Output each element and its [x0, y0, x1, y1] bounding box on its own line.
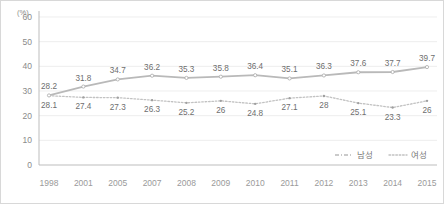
data-label-male: 36.3 [316, 62, 332, 71]
chart-legend: 남성여성 [335, 150, 427, 160]
y-axis-tick-label: 0 [27, 160, 32, 170]
data-label-male: 35.3 [178, 65, 194, 74]
x-axis-tick-label: 2001 [74, 178, 93, 188]
data-point-female [220, 100, 222, 102]
axes-group [39, 11, 437, 165]
y-axis-tick-label: 30 [23, 86, 33, 96]
gridlines-group [39, 17, 437, 140]
data-label-female: 25.1 [350, 108, 366, 117]
data-label-male: 36.4 [247, 62, 263, 71]
data-point-female [323, 95, 325, 97]
data-point-male [288, 77, 291, 80]
x-axis-tick-label: 2010 [246, 178, 265, 188]
data-point-male [47, 94, 50, 97]
data-label-female: 26.3 [144, 105, 160, 114]
data-label-male: 28.2 [41, 82, 57, 91]
x-axis-tick-label: 2012 [314, 178, 333, 188]
data-label-female: 28 [319, 101, 329, 110]
data-point-male [82, 85, 85, 88]
x-axis-tick-label: 2009 [211, 178, 230, 188]
data-point-male [185, 76, 188, 79]
x-axis-tick-label: 2013 [349, 178, 368, 188]
series-line-female [49, 96, 427, 108]
data-point-labels-group: 28.231.834.736.235.335.836.435.136.337.6… [41, 54, 435, 121]
data-label-male: 37.7 [385, 59, 401, 68]
data-label-male: 31.8 [75, 74, 91, 83]
data-label-female: 26 [422, 106, 432, 115]
line-chart-container: (%) 6050403020100 1998200120052007200820… [0, 0, 444, 204]
y-axis-tick-label: 50 [23, 37, 33, 47]
data-series-group [47, 65, 428, 108]
x-axis-tick-label: 2005 [108, 178, 127, 188]
data-point-male [357, 71, 360, 74]
x-axis-tick-label: 2008 [177, 178, 196, 188]
data-label-female: 24.8 [247, 109, 263, 118]
x-axis-tick-label: 2015 [418, 178, 437, 188]
data-point-male [322, 74, 325, 77]
y-axis-tick-labels: 6050403020100 [23, 12, 33, 170]
x-axis-tick-label: 1998 [40, 178, 59, 188]
legend-label-male: 남성 [357, 150, 373, 160]
y-axis-tick-label: 10 [23, 135, 33, 145]
data-point-female [82, 96, 84, 98]
y-axis-tick-label: 40 [23, 61, 33, 71]
data-point-male [254, 74, 257, 77]
data-point-male [425, 65, 428, 68]
data-label-female: 27.4 [75, 102, 91, 111]
data-label-female: 28.1 [41, 101, 57, 110]
data-label-female: 27.1 [282, 103, 298, 112]
data-point-female [288, 97, 290, 99]
data-point-female [426, 100, 428, 102]
x-axis-tick-labels: 1998200120052007200820092010201120122013… [40, 178, 437, 188]
legend-label-female: 여성 [411, 150, 427, 160]
data-label-male: 39.7 [419, 54, 435, 63]
data-label-male: 36.2 [144, 63, 160, 72]
x-axis-tick-label: 2007 [143, 178, 162, 188]
data-label-male: 35.1 [282, 65, 298, 74]
data-point-female [254, 103, 256, 105]
data-label-female: 26 [216, 106, 226, 115]
data-point-female [185, 102, 187, 104]
x-axis-tick-label: 2014 [383, 178, 402, 188]
data-label-female: 23.3 [385, 113, 401, 122]
data-point-female [151, 99, 153, 101]
data-point-female [357, 102, 359, 104]
data-label-male: 35.8 [213, 64, 229, 73]
data-point-male [150, 74, 153, 77]
data-label-male: 34.7 [110, 66, 126, 75]
data-label-female: 27.3 [110, 103, 126, 112]
chart-canvas: (%) 6050403020100 1998200120052007200820… [1, 1, 444, 204]
y-axis-tick-label: 60 [23, 12, 33, 22]
data-point-male [391, 70, 394, 73]
data-point-male [116, 78, 119, 81]
data-point-male [219, 75, 222, 78]
data-label-male: 37.6 [350, 59, 366, 68]
data-point-female [117, 96, 119, 98]
data-point-female [391, 106, 393, 108]
y-axis-tick-label: 20 [23, 111, 33, 121]
data-label-female: 25.2 [178, 108, 194, 117]
x-axis-tick-label: 2011 [280, 178, 299, 188]
